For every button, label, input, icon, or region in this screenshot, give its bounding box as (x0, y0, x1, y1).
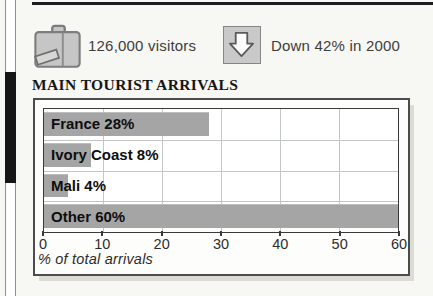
down-arrow-icon (223, 26, 261, 64)
bar-row: Ivory Coast 8% (44, 140, 398, 171)
plot-area: France 28%Ivory Coast 8%Mali 4%Other 60% (43, 108, 399, 233)
bar-row: Other 60% (44, 201, 398, 232)
x-axis-label: % of total arrivals (38, 251, 153, 267)
x-tick-label: 40 (272, 236, 288, 252)
x-tick-label: 50 (332, 236, 348, 252)
page: 126,000 visitors Down 42% in 2000 MAIN T… (0, 0, 433, 296)
suitcase-icon (33, 23, 83, 71)
trend-text: Down 42% in 2000 (271, 37, 400, 54)
bar-row: France 28% (44, 109, 398, 140)
bar-label: Ivory Coast 8% (51, 146, 159, 163)
x-tick-label: 60 (391, 236, 407, 252)
chart-frame: France 28%Ivory Coast 8%Mali 4%Other 60%… (33, 98, 410, 276)
bar-label: Other 60% (51, 208, 125, 225)
down-arrow-glyph (225, 28, 258, 61)
x-tick-label: 30 (213, 236, 229, 252)
x-tick-label: 10 (94, 236, 110, 252)
page-spine-marker (5, 72, 16, 183)
section-title: MAIN TOURIST ARRIVALS (32, 76, 238, 94)
bar-label: France 28% (51, 116, 134, 133)
bar-row: Mali 4% (44, 171, 398, 202)
x-tick-label: 20 (154, 236, 170, 252)
page-spine (5, 0, 16, 296)
visitors-count: 126,000 visitors (88, 37, 196, 54)
bars-layer: France 28%Ivory Coast 8%Mali 4%Other 60% (44, 109, 398, 232)
top-rule (32, 2, 433, 5)
bar-label: Mali 4% (51, 177, 106, 194)
x-tick-label: 0 (39, 236, 47, 252)
